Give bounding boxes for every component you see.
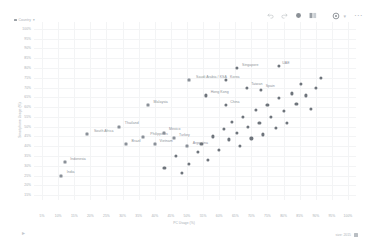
y-tick-label: 70% — [24, 86, 31, 90]
data-point[interactable] — [197, 150, 200, 153]
x-tick-label: 40% — [151, 214, 158, 218]
y-tick-label: 90% — [24, 46, 31, 50]
x-tick-label: 5% — [40, 214, 45, 218]
gridline-horizontal — [34, 58, 356, 59]
data-point[interactable] — [300, 82, 303, 85]
y-tick-label: 25% — [24, 174, 31, 178]
gridline-horizontal — [34, 146, 356, 147]
data-point[interactable] — [285, 121, 288, 124]
data-point-label: Taiwan — [251, 82, 262, 86]
y-tick-label: 35% — [24, 154, 31, 158]
data-point[interactable] — [277, 97, 280, 100]
data-point[interactable] — [185, 145, 188, 148]
y-tick-label: 15% — [24, 193, 31, 197]
data-point[interactable] — [314, 86, 317, 89]
gridline-vertical — [251, 22, 252, 200]
y-tick-label: 30% — [24, 164, 31, 168]
data-point[interactable] — [86, 133, 89, 136]
data-point[interactable] — [63, 160, 66, 163]
data-point[interactable] — [227, 138, 230, 141]
data-point[interactable] — [235, 66, 238, 69]
data-point[interactable] — [230, 120, 233, 123]
y-tick-label: 75% — [24, 76, 31, 80]
data-point[interactable] — [238, 145, 241, 148]
play-icon[interactable]: ▸ — [22, 229, 25, 236]
data-point[interactable] — [211, 135, 214, 138]
data-point-label: Turkey — [179, 133, 190, 137]
x-tick-label: 50% — [184, 214, 191, 218]
gridline-vertical — [42, 22, 43, 200]
y-tick-label: 80% — [24, 66, 31, 70]
y-tick-label: 65% — [24, 95, 31, 99]
data-point[interactable] — [224, 78, 227, 81]
data-point[interactable] — [153, 143, 156, 146]
data-point[interactable] — [274, 126, 277, 129]
data-point[interactable] — [124, 143, 127, 146]
gridline-vertical — [203, 22, 204, 200]
data-point-label: China — [230, 100, 239, 104]
data-point[interactable] — [242, 115, 245, 118]
data-point[interactable] — [235, 131, 238, 134]
y-tick-label: 45% — [24, 134, 31, 138]
data-point[interactable] — [282, 109, 285, 112]
gridline-vertical — [316, 22, 317, 200]
data-point[interactable] — [247, 125, 250, 128]
data-point[interactable] — [118, 125, 121, 128]
data-point-label: Indonesia — [70, 157, 86, 161]
gridline-vertical — [348, 22, 349, 200]
data-point[interactable] — [250, 137, 253, 140]
data-point-label: UAE — [282, 61, 289, 65]
x-tick-label: 25% — [103, 214, 110, 218]
data-point[interactable] — [269, 115, 272, 118]
gridline-vertical — [139, 22, 140, 200]
data-point[interactable] — [319, 76, 322, 79]
data-point[interactable] — [206, 158, 209, 161]
x-tick-label: 20% — [87, 214, 94, 218]
x-tick-label: 85% — [296, 214, 303, 218]
data-point[interactable] — [309, 107, 312, 110]
gridline-horizontal — [34, 29, 356, 30]
gridline-vertical — [155, 22, 156, 200]
gridline-vertical — [171, 22, 172, 200]
y-axis-title-wrap: Smartphone Usage (%) — [8, 0, 18, 240]
x-tick-label: 15% — [71, 214, 78, 218]
data-point[interactable] — [60, 174, 63, 177]
data-point[interactable] — [258, 121, 261, 124]
gridline-horizontal — [34, 127, 356, 128]
data-point-label: Malaysia — [154, 100, 168, 104]
data-point-label: Thailand — [125, 121, 139, 125]
data-point-label: Korea — [230, 75, 240, 79]
y-tick-label: 95% — [24, 37, 31, 41]
data-point[interactable] — [163, 131, 166, 134]
data-point[interactable] — [187, 78, 190, 81]
data-point-label: Vietnam — [160, 139, 173, 143]
scatter-plot: Country ▾ 15%20%25%30%35%40%45%50%55%60%… — [0, 0, 368, 240]
data-point[interactable] — [222, 127, 225, 130]
gridline-horizontal — [34, 97, 356, 98]
x-tick-label: 90% — [312, 214, 319, 218]
size-legend-swatch — [354, 233, 358, 237]
data-point[interactable] — [259, 88, 262, 91]
data-point[interactable] — [174, 154, 177, 157]
gridline-horizontal — [34, 39, 356, 40]
gridline-horizontal — [34, 78, 356, 79]
data-point[interactable] — [142, 136, 145, 139]
data-point[interactable] — [173, 137, 176, 140]
data-point[interactable] — [181, 171, 184, 174]
data-point[interactable] — [163, 166, 166, 169]
x-tick-label: 60% — [216, 214, 223, 218]
data-point[interactable] — [295, 103, 298, 106]
x-tick-label: 45% — [167, 214, 174, 218]
x-tick-label: 65% — [232, 214, 239, 218]
gridline-horizontal — [34, 136, 356, 137]
y-tick-label: 100% — [22, 27, 31, 31]
chart-app: ▾ ⋯ Country ▾ 15%20%25%30%35%40%45%50%55… — [0, 0, 368, 240]
data-point-label: Brazil — [132, 139, 141, 143]
data-point[interactable] — [255, 108, 258, 111]
data-point[interactable] — [218, 149, 221, 152]
data-point[interactable] — [245, 86, 248, 89]
data-point[interactable] — [147, 104, 150, 107]
y-tick-label: 55% — [24, 115, 31, 119]
gridline-vertical — [300, 22, 301, 200]
data-point[interactable] — [290, 92, 293, 95]
